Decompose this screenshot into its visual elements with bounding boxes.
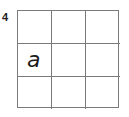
problem-number: 4	[2, 11, 8, 23]
grid-cell-r0-c2[interactable]	[86, 11, 120, 44]
grid-cell-r2-c2[interactable]	[86, 77, 120, 109]
grid-cell-r1-c2[interactable]	[86, 44, 120, 77]
grid-cell-r0-c1[interactable]	[52, 11, 86, 44]
grid-cell-r2-c1[interactable]	[52, 77, 86, 109]
grid-3x3: a	[17, 10, 119, 108]
grid-cell-r0-c0[interactable]	[18, 11, 52, 44]
grid-cell-r1-c1[interactable]	[52, 44, 86, 77]
grid-cell-r1-c0[interactable]: a	[18, 44, 52, 77]
grid-cell-r2-c0[interactable]	[18, 77, 52, 109]
cell-text: a	[27, 48, 40, 72]
